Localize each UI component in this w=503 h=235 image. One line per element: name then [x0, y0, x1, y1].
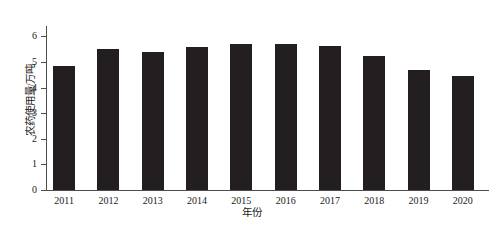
- y-tick-label: 6: [32, 29, 37, 42]
- bar: [230, 44, 252, 190]
- y-tick: 6: [41, 36, 46, 37]
- x-axis-title: 年份: [0, 206, 503, 220]
- y-tick-label: 5: [32, 55, 37, 68]
- bar: [363, 56, 385, 190]
- y-tick: 0: [41, 190, 46, 191]
- y-tick-label: 2: [32, 132, 37, 145]
- y-tick-label: 3: [32, 106, 37, 119]
- bar: [275, 44, 297, 190]
- y-tick-label: 4: [32, 81, 37, 94]
- bar: [142, 52, 164, 190]
- x-axis-line: [46, 190, 489, 191]
- y-tick: 4: [41, 88, 46, 89]
- y-tick: 1: [41, 164, 46, 165]
- bar: [319, 46, 341, 190]
- plot-area: 0123456 20112012201320142015201620172018…: [46, 26, 489, 191]
- bar-chart: 农药使用量/万吨 0123456 20112012201320142015201…: [0, 0, 503, 235]
- bar: [186, 47, 208, 190]
- y-tick-label: 1: [32, 157, 37, 170]
- y-tick: 2: [41, 139, 46, 140]
- bar: [97, 49, 119, 190]
- bar: [53, 66, 75, 190]
- y-tick: 5: [41, 62, 46, 63]
- y-tick: 3: [41, 113, 46, 114]
- y-axis-line: [46, 26, 47, 191]
- bar: [452, 76, 474, 190]
- bar: [408, 70, 430, 190]
- y-axis-title: 农药使用量/万吨: [22, 15, 40, 185]
